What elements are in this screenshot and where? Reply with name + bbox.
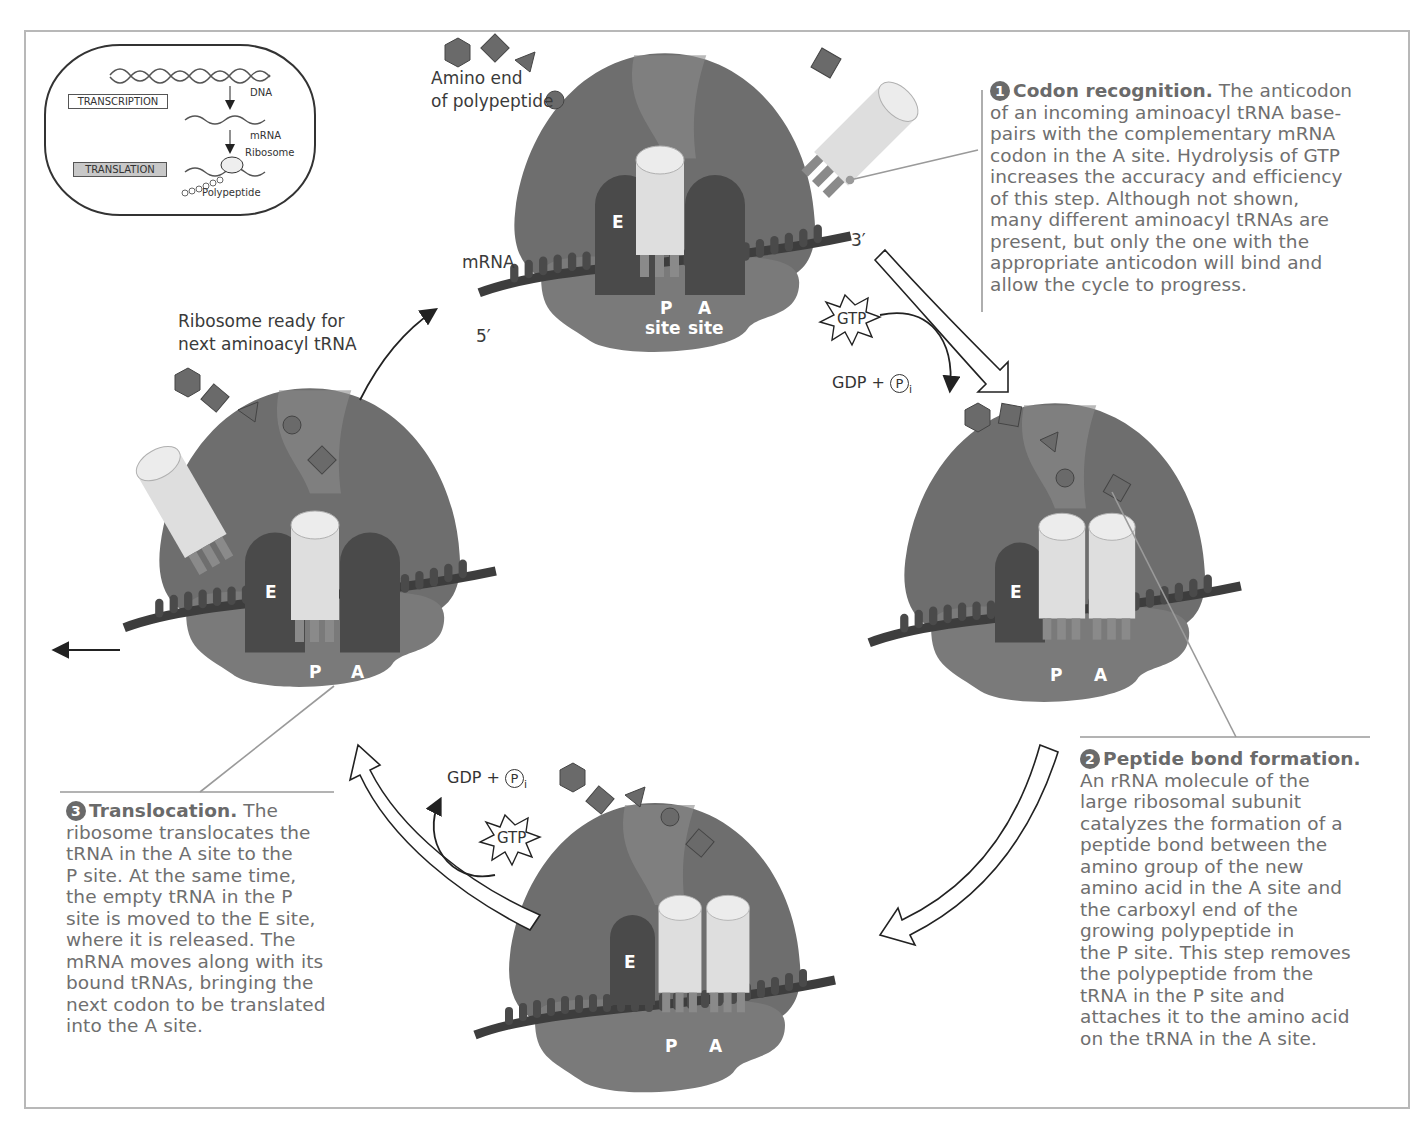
- mrna-label: mRNA: [462, 252, 515, 273]
- gdp-label-2: GDP + Pi: [447, 768, 527, 791]
- polypeptide-inset-label: Polypeptide: [202, 187, 261, 198]
- ribosome-inset-label: Ribosome: [245, 147, 294, 158]
- five-prime-label: 5′: [476, 326, 491, 347]
- p-site-label: P: [1050, 665, 1062, 685]
- step-2-caption: 2Peptide bond formation. An rRNA molecul…: [1080, 748, 1400, 1049]
- e-site-label: E: [265, 582, 277, 602]
- three-prime-label: 3′: [851, 230, 866, 251]
- e-site-label: E: [612, 212, 624, 232]
- p-site-label: P: [309, 662, 321, 682]
- translation-box: TRANSLATION: [73, 162, 167, 177]
- amino-end-label-2: of polypeptide: [431, 91, 553, 112]
- gtp-label-1: GTP: [837, 310, 866, 328]
- a-site-label: A: [709, 1036, 722, 1056]
- gtp-label-2: GTP: [497, 829, 526, 847]
- phosphate-icon: P: [505, 769, 524, 788]
- mrna-inset-label: mRNA: [250, 130, 281, 141]
- a-site-label: A: [698, 298, 711, 318]
- ready-label-2: next aminoacyl tRNA: [178, 334, 357, 355]
- step-3-caption: 3Translocation. The ribosome translocate…: [66, 800, 366, 1037]
- e-site-label: E: [1010, 582, 1022, 602]
- step-number-badge: 1: [990, 81, 1010, 101]
- a-site-word: site: [688, 318, 724, 338]
- a-site-label: A: [351, 662, 364, 682]
- step-number-badge: 2: [1080, 749, 1100, 769]
- p-site-word: site: [645, 318, 681, 338]
- e-site-label: E: [624, 952, 636, 972]
- phosphate-icon: P: [890, 374, 909, 393]
- transcription-box: TRANSCRIPTION: [68, 94, 168, 109]
- amino-end-label: Amino end: [431, 68, 523, 89]
- ready-label: Ribosome ready for: [178, 311, 345, 332]
- p-site-label: P: [665, 1036, 677, 1056]
- gdp-label-1: GDP + Pi: [832, 373, 912, 396]
- step-number-badge: 3: [66, 801, 86, 821]
- p-site-label: P: [660, 298, 672, 318]
- step-1-caption: 1Codon recognition. The anticodon of an …: [990, 80, 1390, 295]
- a-site-label: A: [1094, 665, 1107, 685]
- dna-label: DNA: [250, 87, 272, 98]
